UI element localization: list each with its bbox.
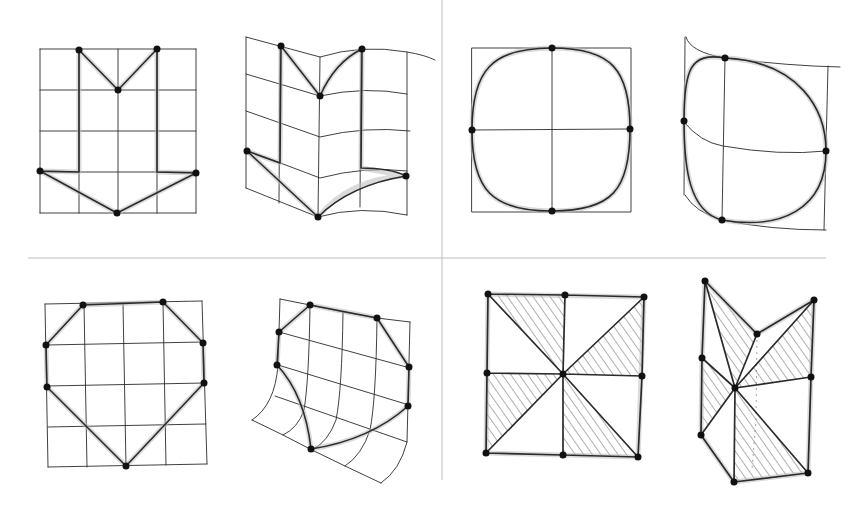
- panel-8-deformed-mesh: [698, 278, 818, 486]
- panel-5-original-grid: [43, 299, 208, 470]
- grid-lines: [252, 299, 410, 483]
- control-points: [244, 43, 410, 221]
- m-arrow-deformed-shape: [247, 46, 406, 217]
- panel-1-original-grid: [37, 46, 200, 217]
- panel-6-deformed-grid: [252, 299, 413, 483]
- figure-canvas: [0, 0, 863, 510]
- panel-3-original-grid: [469, 45, 634, 215]
- panel-7-original-mesh: [483, 291, 648, 461]
- grid-lines: [40, 49, 196, 213]
- grid-lines: [472, 48, 631, 212]
- deformation-figure: [0, 0, 863, 510]
- grid-lines: [45, 301, 207, 467]
- shield-shape: [46, 302, 204, 466]
- panel-4-deformed-grid: [681, 37, 841, 230]
- panel-2-deformed-grid: [244, 37, 436, 221]
